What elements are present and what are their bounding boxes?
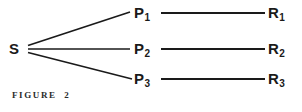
- node-label-p1: P1: [134, 5, 150, 20]
- node-label-p2-subscript: 2: [145, 48, 151, 59]
- edge-group-p-to-r: [161, 13, 265, 79]
- edge-group-source-fanout: [28, 12, 132, 79]
- node-label-p1-subscript: 1: [145, 12, 151, 23]
- node-label-r2-base: R: [268, 40, 279, 57]
- node-label-r2-subscript: 2: [279, 48, 285, 59]
- node-label-r1-base: R: [268, 4, 279, 21]
- node-label-source-base: S: [9, 40, 19, 57]
- node-label-p2-base: P: [134, 40, 144, 57]
- node-label-p3-subscript: 3: [145, 78, 151, 89]
- node-label-p3-base: P: [134, 70, 144, 87]
- node-label-r3: R3: [268, 71, 284, 86]
- node-label-r1-subscript: 1: [279, 12, 285, 23]
- node-label-r3-base: R: [268, 70, 279, 87]
- edge-s-to-p3: [28, 53, 132, 80]
- node-label-r3-subscript: 3: [279, 78, 285, 89]
- node-label-r1: R1: [268, 5, 284, 20]
- figure-caption: FIGURE 2: [12, 90, 70, 100]
- node-label-p1-base: P: [134, 4, 144, 21]
- node-label-source: S: [9, 41, 19, 56]
- node-label-p2: P2: [134, 41, 150, 56]
- edge-s-to-p1: [28, 12, 130, 46]
- figure-container: S P1 P2 P3 R1 R2 R3 FIGURE 2: [0, 0, 302, 112]
- node-label-p3: P3: [134, 71, 150, 86]
- node-label-r2: R2: [268, 41, 284, 56]
